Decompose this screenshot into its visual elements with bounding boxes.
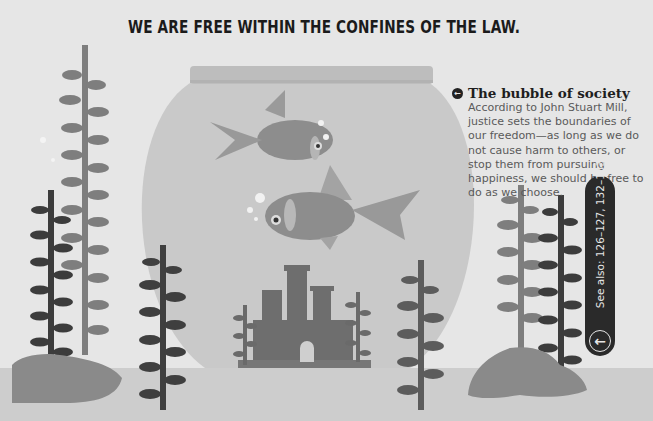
see-also-tab[interactable]: See also: 126–127, 132–133 ← [585, 176, 615, 356]
see-also-label: See also: 126–127, 132–133 [594, 160, 606, 308]
seaweed-center-left [139, 245, 186, 410]
rock-left [12, 354, 122, 403]
arrow-left-circle-icon: ← [452, 88, 463, 99]
book-page: WE ARE FREE WITHIN THE CONFINES OF THE L… [0, 0, 653, 421]
aquarium-illustration [0, 0, 653, 421]
seaweed-right-dark [538, 195, 582, 370]
caption-block: ← The bubble of society According to Joh… [468, 85, 648, 200]
page-headline: WE ARE FREE WITHIN THE CONFINES OF THE L… [128, 17, 424, 37]
arrow-left-circle-icon[interactable]: ← [589, 330, 611, 352]
caption-body: According to John Stuart Mill, justice s… [468, 101, 648, 200]
caption-title: The bubble of society [468, 85, 630, 101]
seaweed-left-dark [30, 190, 73, 360]
caption-title-row: ← The bubble of society [452, 85, 648, 101]
rock-right [468, 347, 587, 398]
seaweed-right-light [497, 185, 543, 375]
